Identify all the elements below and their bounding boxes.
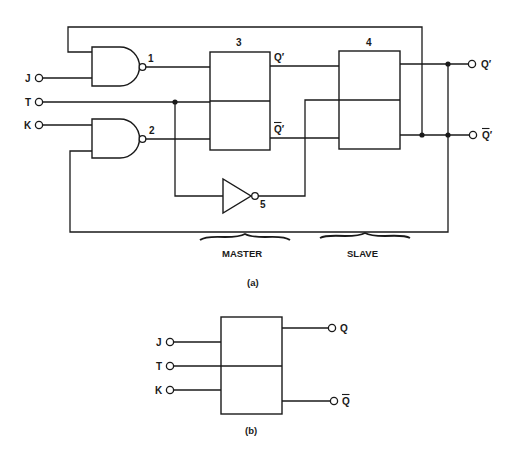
master-section-label: MASTER xyxy=(222,248,262,259)
k-input-label: K xyxy=(24,120,32,131)
b-qbar-output-terminal xyxy=(330,397,337,404)
b-k-input-label: K xyxy=(155,385,163,396)
slave-brace xyxy=(320,233,410,238)
qbar-prime-output-label: Q′ xyxy=(482,130,493,141)
t-junction-dot xyxy=(172,99,177,104)
qbar-prime-output-label-group: Q′ xyxy=(482,129,493,142)
qbar-vertical-junction-dot xyxy=(445,132,450,137)
t-input-label: T xyxy=(25,97,31,108)
inverter-label: 5 xyxy=(260,199,266,210)
master-qbar-label-group: Q′ xyxy=(274,123,285,136)
figure-a-caption: (a) xyxy=(247,277,259,288)
b-q-output-label: Q xyxy=(340,323,348,334)
gate2-inversion-bubble xyxy=(139,136,146,143)
k-input-terminal xyxy=(35,121,42,128)
nand-gate-2 xyxy=(92,119,139,158)
t-input-terminal xyxy=(35,98,42,105)
b-j-input-terminal xyxy=(166,338,173,345)
q-prime-output-label: Q′ xyxy=(481,59,492,70)
qbar-prime-output-terminal xyxy=(469,131,476,138)
gate1-label: 1 xyxy=(148,53,154,64)
inverter-5 xyxy=(223,179,251,213)
master-q-label: Q′ xyxy=(274,52,285,63)
figure-b-symbol: J T K Q Q (b) xyxy=(155,317,350,436)
b-t-input-label: T xyxy=(156,361,162,372)
figure-a-circuit: 1 2 3 Q′ Q′ 5 4 xyxy=(24,27,493,288)
master-qbar-label: Q′ xyxy=(274,124,285,135)
qbar-feedback-junction-dot xyxy=(419,132,424,137)
b-j-input-label: J xyxy=(156,337,162,348)
gate2-label: 2 xyxy=(149,125,155,136)
master-brace xyxy=(200,234,290,240)
b-q-output-terminal xyxy=(328,324,335,331)
block3-label: 3 xyxy=(236,37,242,48)
q-feedback-junction-dot xyxy=(445,61,450,66)
q-prime-output-terminal xyxy=(468,60,475,67)
nand-gate-1 xyxy=(92,47,140,86)
slave-section-label: SLAVE xyxy=(347,248,378,259)
j-input-label: J xyxy=(25,73,31,84)
b-k-input-terminal xyxy=(166,386,173,393)
figure-b-caption: (b) xyxy=(245,425,257,436)
jk-master-slave-flipflop-figure: 1 2 3 Q′ Q′ 5 4 xyxy=(0,0,522,459)
inverter-bubble xyxy=(252,193,259,200)
b-t-input-terminal xyxy=(166,362,173,369)
block4-label: 4 xyxy=(366,37,372,48)
gate1-inversion-bubble xyxy=(139,64,146,71)
j-input-terminal xyxy=(35,74,42,81)
b-qbar-output-label-group: Q xyxy=(342,395,350,408)
b-qbar-output-label: Q xyxy=(342,396,350,407)
